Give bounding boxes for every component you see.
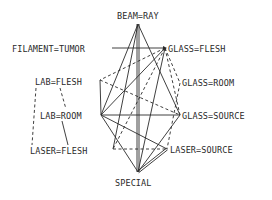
edge-glass-flesh-lab-room <box>101 48 165 115</box>
edge-lab-flesh-label-lab-room-label <box>60 88 66 109</box>
edge-beam-ray-lab-room <box>101 24 138 115</box>
node-label-glass-source: GLASS=SOURCE <box>182 111 245 121</box>
node-label-filament-tumor: FILAMENT=TUMOR <box>12 44 85 54</box>
network-diagram: BEAM=RAYFILAMENT=TUMORGLASS=FLESHLAB=FLE… <box>0 0 272 200</box>
edge-glass-room-laser-source <box>167 83 180 149</box>
node-label-lab-room: LAB=ROOM <box>40 111 82 121</box>
edge-lab-room-label-laser-flesh-label <box>62 121 68 145</box>
node-label-beam-ray: BEAM=RAY <box>117 11 159 21</box>
node-label-glass-room: GLASS=ROOM <box>182 78 234 88</box>
edge-glass-flesh-glass-source <box>165 48 180 115</box>
node-label-laser-flesh: LASER=FLESH <box>30 146 87 156</box>
edge-beam-ray-laser-flesh <box>113 24 138 149</box>
edge-lab-room-special <box>101 115 138 172</box>
edge-lab-room-laser-source <box>101 115 167 149</box>
edge-laser-source-special <box>137 148 166 171</box>
node-label-lab-flesh: LAB=FLESH <box>35 77 82 87</box>
edge-laser-source-special <box>139 150 168 173</box>
diagram-edges <box>0 0 272 200</box>
edge-lab-flesh-label-laser-flesh-label <box>32 88 36 145</box>
edge-lab-flesh-lab-room <box>100 80 101 115</box>
node-label-laser-source: LASER=SOURCE <box>170 145 233 155</box>
node-label-glass-flesh: GLASS=FLESH <box>168 44 225 54</box>
node-label-special: SPECIAL <box>115 178 152 188</box>
